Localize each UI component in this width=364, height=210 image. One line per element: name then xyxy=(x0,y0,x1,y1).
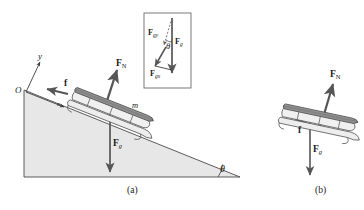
origin-label: O xyxy=(15,86,22,95)
inset-gravity-x-label: Fgx xyxy=(150,70,160,78)
axis-label-x: x xyxy=(57,101,60,108)
gravity-force-label-b: Fg xyxy=(313,145,322,155)
inset-gravity-label: Fg xyxy=(175,38,183,46)
physics-figure-sled-incline: y O x f FN m Fg θ (a) Fgy Fg θ Fgx FN f … xyxy=(0,0,364,210)
caption-panel-a: (a) xyxy=(127,186,138,196)
normal-force-label-a: FN xyxy=(116,59,127,69)
friction-arrow-a xyxy=(47,89,68,94)
normal-force-label-b: FN xyxy=(330,70,341,80)
friction-force-label-a: f xyxy=(64,79,67,89)
gravity-force-label-a: Fg xyxy=(113,139,122,149)
caption-panel-b: (b) xyxy=(315,186,326,196)
axis-label-y: y xyxy=(38,52,42,61)
inset-gravity-y-label: Fgy xyxy=(148,29,158,37)
figure-canvas xyxy=(0,0,364,210)
friction-force-label-b: f xyxy=(298,126,301,136)
inset-angle-label: θ xyxy=(166,42,170,51)
mass-label: m xyxy=(132,101,138,110)
incline-angle-label: θ xyxy=(220,164,225,174)
